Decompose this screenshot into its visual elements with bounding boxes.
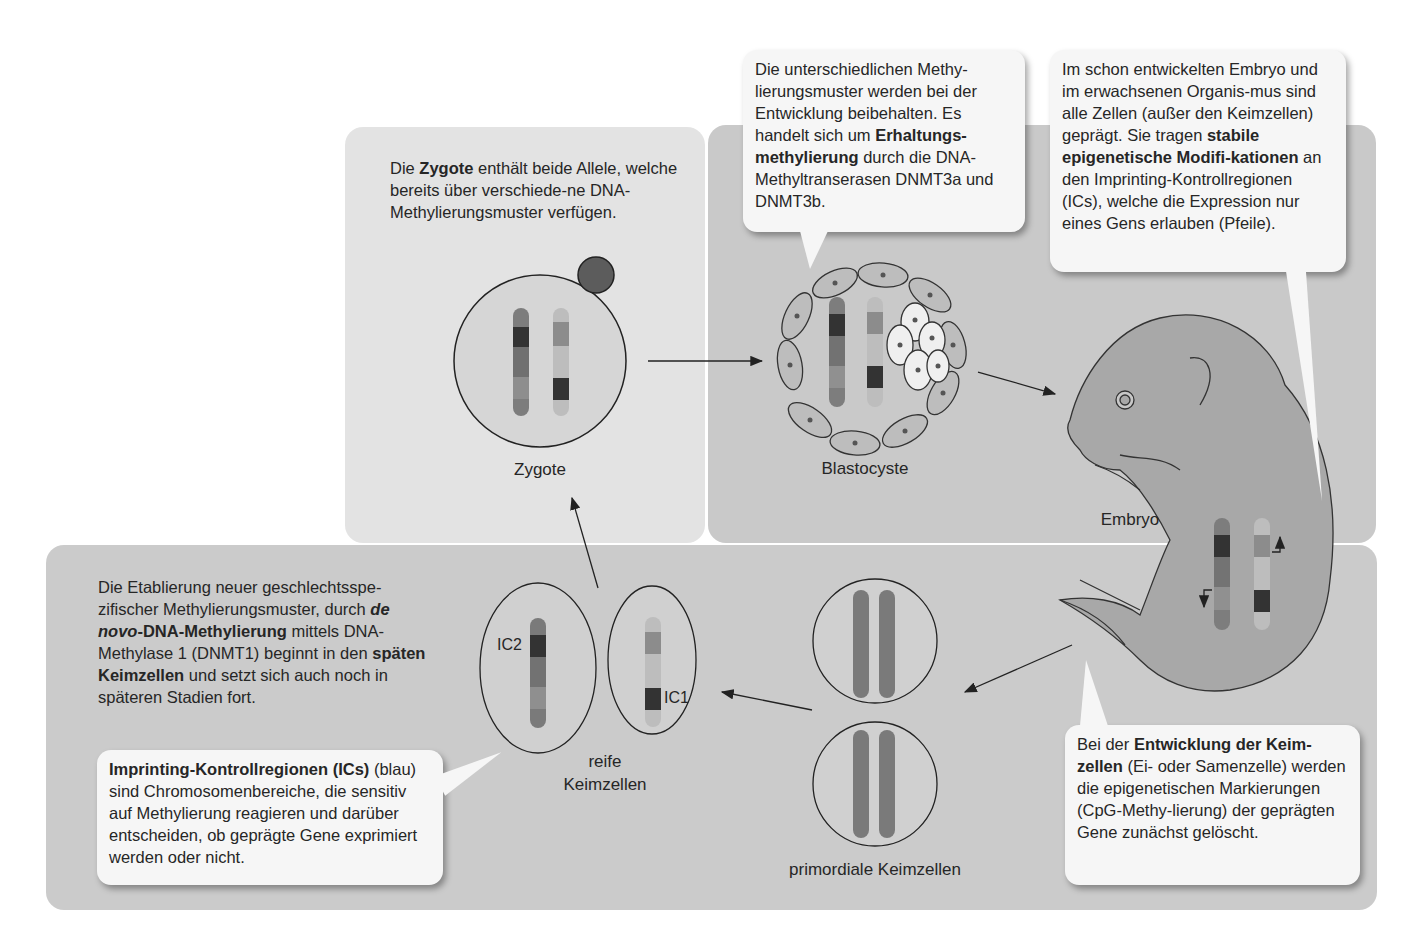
mature-germ-cells-label-1: reife (555, 752, 655, 772)
zygote-chromosome-right (553, 308, 569, 416)
primordial-germ-cells-label: primordiale Keimzellen (770, 860, 980, 880)
bubble-tail (800, 231, 828, 269)
primordial-germ-cells (813, 579, 937, 846)
mature-germ-cells (480, 583, 696, 753)
ic1-label: IC1 (664, 689, 689, 707)
de-novo-description: Die Etablierung neuer geschlechtsspe-zif… (98, 576, 428, 708)
zygote-chromosome-left (513, 308, 529, 416)
embryo-label: Embryo (1085, 510, 1175, 530)
zygote-label: Zygote (490, 460, 590, 480)
stable-modification-bubble: Im schon entwickelten Embryo und im erwa… (1050, 50, 1346, 272)
imprinting-control-regions-bubble: Imprinting-Kontrollregionen (ICs) (blau)… (97, 750, 443, 885)
blastocyst-label: Blastocyste (800, 459, 930, 479)
germ-cell-development-bubble: Bei der Entwicklung der Keim-zellen (Ei-… (1065, 725, 1360, 885)
embryo-figure (1060, 315, 1333, 691)
zygote-description: Die Zygote enthält beide Allele, welche … (390, 157, 690, 223)
maintenance-methylation-bubble: Die unterschiedlichen Methy-lierungsmust… (743, 50, 1025, 232)
mature-germ-cells-label-2: Keimzellen (555, 775, 655, 795)
zygote-cell (454, 257, 626, 447)
bubble-tail (1080, 660, 1108, 726)
blastocyst (774, 261, 971, 457)
ic2-label: IC2 (497, 636, 522, 654)
